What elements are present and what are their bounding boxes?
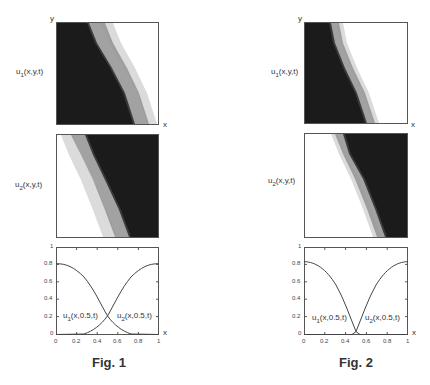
x-tick: 0.8 xyxy=(134,338,142,344)
u2-curve-label: u2(x,0.5,t) xyxy=(117,311,152,322)
u2-density-panel xyxy=(304,133,408,238)
u2-curve xyxy=(56,264,159,335)
x-tick: 0.4 xyxy=(93,338,101,344)
y-tick: 0.8 xyxy=(44,260,52,266)
u1-panel-label: u1(x,y,t) xyxy=(271,67,298,78)
y-tick: 0.2 xyxy=(292,313,300,319)
figure-1: y x u1(x,y,t) u2(x,y,t) xyxy=(0,0,215,385)
y-axis-label: y xyxy=(50,14,54,23)
figure-caption: Fig. 1 xyxy=(92,355,126,370)
x-axis-label: x xyxy=(163,120,167,129)
x-tick: 1 xyxy=(406,338,409,344)
figure-caption: Fig. 2 xyxy=(339,355,373,370)
y-tick: 0.2 xyxy=(44,313,52,319)
u2-density-image xyxy=(57,135,158,237)
u2-panel-label: u2(x,y,t) xyxy=(15,180,42,191)
u1-density-image xyxy=(305,23,407,123)
y-tick: 0.4 xyxy=(44,295,52,301)
y-tick: 0.6 xyxy=(292,278,300,284)
x-axis-label: x xyxy=(412,328,416,337)
u1-density-image xyxy=(57,23,158,124)
x-tick: 0.6 xyxy=(113,338,121,344)
u1-density-panel xyxy=(304,22,408,124)
x-tick: 0.4 xyxy=(341,338,349,344)
u2-curve-label: u2(x,0.5,t) xyxy=(365,313,400,324)
u1-curve xyxy=(56,264,159,335)
x-axis-label: x xyxy=(163,328,167,337)
u1-panel-label: u1(x,y,t) xyxy=(16,67,43,78)
line-plot xyxy=(56,247,159,335)
x-tick: 0.2 xyxy=(320,338,328,344)
figure-2: y x u1(x,y,t) u2(x,y,t) 1 0 xyxy=(215,0,430,385)
x-tick: 0 xyxy=(302,338,305,344)
x-tick: 0.2 xyxy=(72,338,80,344)
u1-curve-label: u1(x,0.5,t) xyxy=(63,311,98,322)
x-axis-label: x xyxy=(411,120,415,129)
x-tick: 0.6 xyxy=(362,338,370,344)
u2-panel-label: u2(x,y,t) xyxy=(268,176,295,187)
y-tick: 0 xyxy=(50,330,53,336)
x-tick: 1 xyxy=(157,338,160,344)
y-tick: 1 xyxy=(50,243,53,249)
y-tick: 1 xyxy=(298,243,301,249)
line-plot-svg xyxy=(56,247,159,335)
y-tick: 0.4 xyxy=(292,295,300,301)
u2-density-image xyxy=(305,134,407,237)
y-tick: 0.8 xyxy=(292,260,300,266)
y-tick: 0.6 xyxy=(44,278,52,284)
u1-density-panel xyxy=(56,22,159,125)
u1-curve-label: u1(x,0.5,t) xyxy=(312,313,347,324)
x-tick: 0.8 xyxy=(383,338,391,344)
u2-density-panel xyxy=(56,134,159,238)
y-axis-label: y xyxy=(298,14,302,23)
x-tick: 0 xyxy=(54,338,57,344)
y-tick: 0 xyxy=(298,330,301,336)
